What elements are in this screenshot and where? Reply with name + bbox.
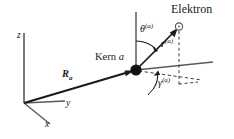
angle-theta-label: θ(a) [140, 23, 153, 34]
vector-R-subscript: a [69, 74, 73, 82]
nucleus-label-text: Kern [95, 51, 116, 62]
angle-gamma-superscript: (a) [162, 76, 170, 84]
angle-theta-arc [136, 41, 156, 49]
vector-R-label: Ra [62, 69, 73, 82]
radius-r-label: r(a) [161, 38, 173, 49]
z-axis-label: z [17, 31, 21, 41]
projection-construction-group [179, 31, 198, 86]
coordinate-diagram-svg [0, 0, 234, 139]
figure-container: Elektron Kern a z y x Ra θ(a) r(a) γ(a) [0, 0, 234, 139]
local-horizontal-axis-line [136, 62, 213, 70]
angle-gamma-arrowhead [154, 70, 160, 75]
electron-center-dot [178, 25, 180, 27]
electron-marker-group [175, 23, 182, 30]
vector-R-group [24, 70, 134, 103]
lab-axes-group [24, 33, 65, 124]
nucleus-label: Kern a [95, 52, 124, 63]
x-axis-label: x [45, 120, 49, 130]
angle-gamma-label: γ(a) [158, 77, 170, 88]
vector-R-shaft [24, 72, 129, 103]
angle-gamma-leader-line [148, 88, 154, 95]
nucleus-index-label: a [119, 51, 124, 62]
y-axis-label: y [66, 99, 70, 109]
vector-R-symbol: R [62, 68, 69, 79]
angle-theta-group [136, 41, 158, 52]
azimuth-reference-dashed-line [139, 71, 202, 80]
radius-r-superscript: (a) [165, 37, 173, 45]
angle-theta-superscript: (a) [145, 22, 153, 30]
nucleus-dot [130, 64, 141, 75]
electron-label: Elektron [171, 3, 212, 15]
projection-to-plane-dashed-line [179, 82, 198, 84]
